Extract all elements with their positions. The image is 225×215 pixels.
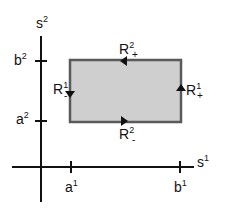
edge-left-sub: - xyxy=(64,91,67,101)
y-axis-label: s2 xyxy=(36,16,48,30)
x-axis-label-sup: 1 xyxy=(204,153,209,163)
edge-label-top: R2 + xyxy=(119,42,134,56)
edge-top-sub: + xyxy=(132,50,138,60)
edge-left-base: R xyxy=(53,81,63,97)
tick-b1-sup: 1 xyxy=(182,178,187,188)
x-axis-label-base: s xyxy=(197,154,204,170)
tick-a1-base: a xyxy=(65,179,73,195)
tick-a2-base: a xyxy=(16,111,24,127)
tick-label-a2: a2 xyxy=(16,112,29,126)
edge-bottom-sub: - xyxy=(132,135,135,145)
y-axis-label-base: s xyxy=(36,15,43,31)
x-axis-label: s1 xyxy=(197,155,209,169)
tick-a2-sup: 2 xyxy=(24,110,29,120)
edge-label-bottom: R2 - xyxy=(119,127,134,141)
region-rectangle xyxy=(70,60,181,122)
tick-b2-base: b xyxy=(14,52,22,68)
tick-label-b1: b1 xyxy=(174,180,187,194)
edge-bottom-base: R xyxy=(119,126,129,142)
diagram-canvas xyxy=(0,0,225,215)
edge-right-base: R xyxy=(186,82,196,98)
tick-label-b2: b2 xyxy=(14,53,27,67)
y-axis-label-sup: 2 xyxy=(43,14,48,24)
tick-a1-sup: 1 xyxy=(73,178,78,188)
edge-label-left: R1 - xyxy=(53,82,68,96)
edge-right-sub: + xyxy=(197,91,203,101)
edge-label-right: R1 + xyxy=(186,83,201,97)
tick-label-a1: a1 xyxy=(65,180,78,194)
edge-left-sup: 1 xyxy=(63,80,68,90)
edge-top-base: R xyxy=(119,41,129,57)
tick-b1-base: b xyxy=(174,179,182,195)
tick-b2-sup: 2 xyxy=(22,51,27,61)
